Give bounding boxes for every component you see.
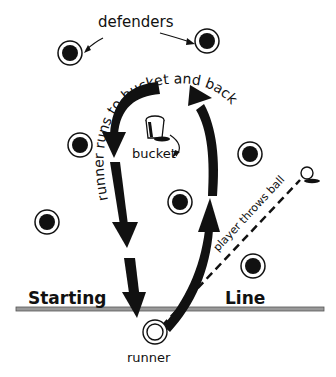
starting-label: Starting	[28, 288, 106, 308]
runner-icon	[143, 320, 167, 344]
defender-icon	[241, 254, 265, 278]
defender-icon	[35, 210, 59, 234]
line-label: Line	[225, 288, 265, 308]
defender-icon	[58, 41, 82, 65]
defender-icon	[68, 133, 92, 157]
defender-icon	[168, 190, 192, 214]
defenders-label: defenders	[98, 13, 174, 31]
runner-label: runner	[127, 350, 171, 365]
defender-icon	[195, 29, 219, 53]
thrower-label: player throws ball	[211, 173, 288, 254]
ball-icon	[301, 167, 313, 179]
pointer-arrow-icon	[160, 33, 190, 42]
bucket-icon	[146, 116, 170, 142]
defender-icon	[238, 142, 262, 166]
game-diagram: runner runs to bucket and back bucket pl…	[0, 0, 336, 377]
bucket-label: bucket	[132, 146, 176, 161]
